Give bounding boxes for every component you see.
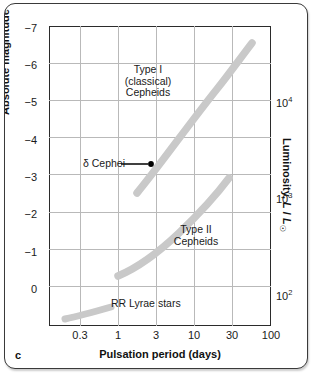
x-tick-label: 30 [215,330,249,341]
x-tick-label: 3 [139,330,173,341]
y2-tick-exponent: 4 [288,95,292,104]
y2-tick-exponent: 2 [288,288,292,297]
y2-tick-label: 104 [276,94,308,109]
delta-cephei-label: δ Cephei [83,157,125,169]
x-tick-label: 0.3 [63,330,97,341]
y-tick-label: −1 [11,247,37,257]
series-label-type-i-cepheids: Type I (classical) Cepheids [109,64,187,99]
y2-tick-mantissa: 10 [276,97,288,109]
y2-tick-mantissa: 10 [276,290,288,302]
delta-cephei-marker [148,161,154,167]
y-tick-label: −4 [11,135,37,145]
y-tick-label: −3 [11,172,37,182]
series-label-rr-lyrae-stars: RR Lyrae stars [111,298,203,310]
y-tick-label: −7 [11,23,37,33]
series-label-type-ii-cepheids: Type II Cepheids [161,224,231,247]
y-tick-label: −2 [11,209,37,219]
y-tick-label: 0 [11,284,37,294]
y2-axis-title: Luminosity, L / L☉ [278,110,293,260]
y-tick-label: −6 [11,60,37,70]
x-tick-label: 10 [177,330,211,341]
y-axis-title: Absolute magnitude [4,3,11,122]
panel-letter: c [15,349,21,361]
y-tick-label: −5 [11,97,37,107]
x-tick-label: 100 [254,330,288,341]
x-axis-title: Pulsation period (days) [49,348,271,360]
plot-area: Type I (classical) Cepheids Type II Ceph… [49,26,271,326]
figure-card: −7 −6 −5 −4 −3 −2 −1 0 Absolute magnitud… [4,3,308,369]
x-tick-label: 1 [101,330,135,341]
y2-tick-label: 102 [276,287,308,302]
